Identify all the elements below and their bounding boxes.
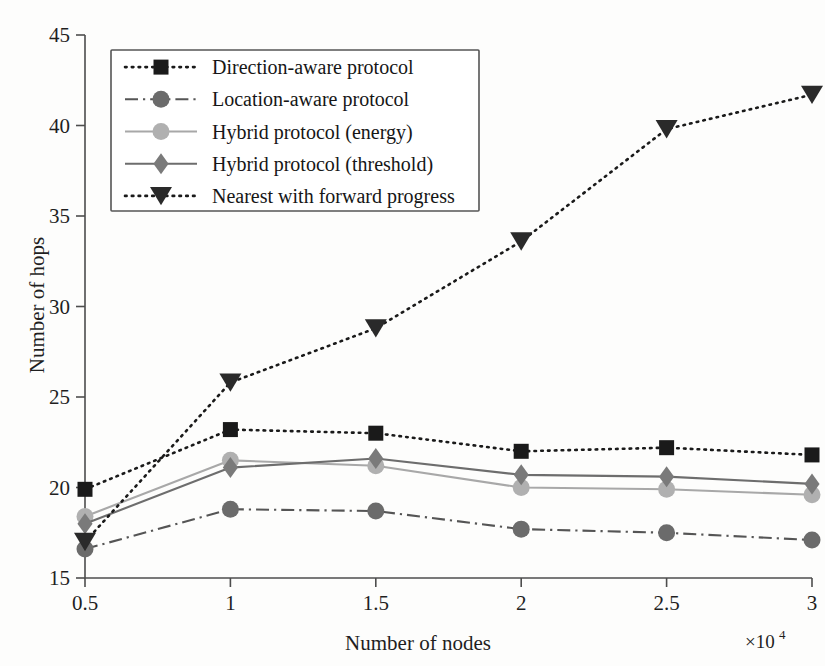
y-tick-label: 30 xyxy=(49,295,70,319)
data-point-marker xyxy=(367,503,384,520)
data-point-marker xyxy=(153,123,170,140)
y-axis-label: Number of hops xyxy=(25,237,49,373)
y-tick-label: 20 xyxy=(49,476,70,500)
x-tick-label: 3 xyxy=(807,591,818,615)
x-tick-label: 2.5 xyxy=(653,591,679,615)
data-point-marker xyxy=(804,531,821,548)
x-tick-label: 1 xyxy=(225,591,236,615)
series-line xyxy=(85,509,812,549)
data-point-marker xyxy=(801,86,823,104)
y-tick-label: 15 xyxy=(49,566,70,590)
y-tick-label: 25 xyxy=(49,385,70,409)
data-point-marker xyxy=(223,422,238,437)
chart-figure: 152025303540450.511.522.53 Direction-awa… xyxy=(0,0,825,666)
x-axis-multiplier: ×10 xyxy=(745,631,775,652)
data-point-marker xyxy=(222,501,239,518)
data-point-marker xyxy=(513,521,530,538)
series-line xyxy=(85,460,812,516)
data-point-marker xyxy=(153,91,170,108)
series-3 xyxy=(77,452,821,525)
data-point-marker xyxy=(659,440,674,455)
legend-label: Direction-aware protocol xyxy=(212,56,414,79)
series-2 xyxy=(77,501,821,558)
data-point-marker xyxy=(154,60,169,75)
x-axis-multiplier-exponent: 4 xyxy=(779,627,786,642)
legend-label: Hybrid protocol (energy) xyxy=(212,121,413,144)
legend-label: Location-aware protocol xyxy=(212,88,410,111)
series-line xyxy=(85,430,812,490)
x-tick-label: 1.5 xyxy=(363,591,389,615)
y-tick-label: 40 xyxy=(49,114,70,138)
x-tick-label: 0.5 xyxy=(72,591,98,615)
legend-label: Nearest with forward progress xyxy=(212,185,455,208)
legend-label: Hybrid protocol (threshold) xyxy=(212,153,433,176)
y-tick-label: 45 xyxy=(49,23,70,47)
y-tick-label: 35 xyxy=(49,204,70,228)
data-point-marker xyxy=(658,524,675,541)
series-1 xyxy=(78,422,820,497)
data-point-marker xyxy=(368,426,383,441)
x-tick-label: 2 xyxy=(516,591,527,615)
data-point-marker xyxy=(514,444,529,459)
line-chart: 152025303540450.511.522.53 Direction-awa… xyxy=(0,0,825,666)
data-point-marker xyxy=(510,232,532,250)
data-point-marker xyxy=(365,319,387,337)
data-point-marker xyxy=(805,447,820,462)
chart-legend: Direction-aware protocolLocation-aware p… xyxy=(111,50,479,211)
x-axis-label: Number of nodes xyxy=(345,631,491,655)
data-point-marker xyxy=(78,482,93,497)
